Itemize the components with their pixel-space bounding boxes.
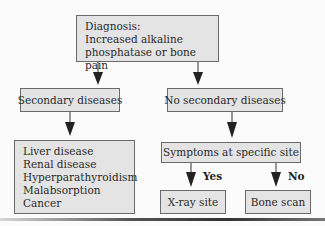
diagnosis-line-1: Diagnosis: bbox=[85, 20, 218, 33]
list-item: Liver disease bbox=[23, 145, 134, 158]
bone-scan-label: Bone scan bbox=[251, 196, 306, 209]
secondary-diseases-list-box: Liver disease Renal disease Hyperparathy… bbox=[14, 140, 135, 214]
secondary-diseases-label: Secondary diseases bbox=[18, 94, 123, 107]
yes-edge-label: Yes bbox=[203, 170, 222, 182]
list-item: Cancer bbox=[23, 197, 134, 210]
list-item: Hyperparathyroidism bbox=[23, 171, 134, 184]
diagnosis-box: Diagnosis: Increased alkaline phosphatas… bbox=[76, 15, 219, 62]
diagnosis-line-2: Increased alkaline bbox=[85, 33, 218, 46]
diagnosis-line-3: phosphatase or bone pain bbox=[85, 46, 218, 72]
xray-site-box: X-ray site bbox=[160, 190, 226, 214]
list-item: Renal disease bbox=[23, 158, 134, 171]
symptoms-label: Symptoms at specific site bbox=[163, 146, 299, 159]
list-item: Malabsorption bbox=[23, 184, 134, 197]
bottom-rule bbox=[0, 218, 325, 221]
secondary-diseases-box: Secondary diseases bbox=[20, 88, 120, 112]
bone-scan-box: Bone scan bbox=[245, 190, 311, 214]
no-edge-label: No bbox=[288, 170, 305, 182]
no-secondary-diseases-box: No secondary diseases bbox=[167, 88, 283, 112]
xray-site-label: X-ray site bbox=[168, 196, 218, 209]
no-secondary-diseases-label: No secondary diseases bbox=[164, 94, 286, 107]
symptoms-box: Symptoms at specific site bbox=[161, 142, 301, 163]
